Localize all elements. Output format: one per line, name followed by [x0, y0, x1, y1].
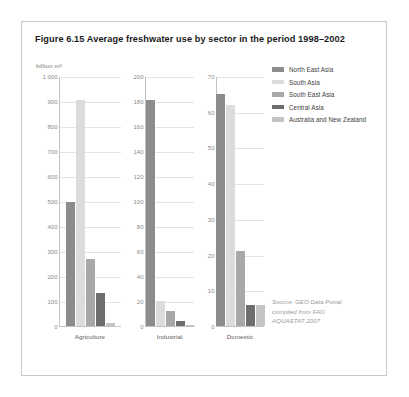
- legend-item: South Asia: [272, 79, 384, 86]
- bar-central-asia: [96, 293, 105, 326]
- bar-south-east-asia: [236, 251, 245, 326]
- bar-north-east-asia: [146, 100, 155, 326]
- y-axis-tick-label: 60: [208, 110, 215, 116]
- bar-south-east-asia: [86, 259, 95, 326]
- source-line-1: Source: GEO Data Portal,: [272, 297, 382, 307]
- bar-australia-and-new-zealand: [186, 325, 195, 326]
- y-axis-tick-label: 40: [137, 274, 144, 280]
- y-axis-tick-label: 140: [133, 149, 143, 155]
- bar-south-asia: [156, 301, 165, 326]
- y-axis-tick-label: 10: [208, 288, 215, 294]
- bar-group: [146, 77, 194, 326]
- legend-label: South East Asia: [289, 91, 334, 98]
- figure-title: Figure 6.15 Average freshwater use by se…: [35, 34, 375, 44]
- legend-label: Central Asia: [289, 104, 324, 111]
- chart-panel-domestic: 010203040506070 Domestic: [196, 77, 266, 345]
- source-line-3: AQUASTAT 2007: [272, 316, 382, 326]
- y-axis-tick-label: 100: [133, 199, 143, 205]
- bar-central-asia: [246, 305, 255, 326]
- y-axis-tick-label: 300: [47, 249, 57, 255]
- bar-central-asia: [176, 321, 185, 326]
- y-axis-tick-label: 70: [208, 74, 215, 80]
- y-axis-tick-label: 60: [137, 249, 144, 255]
- plot-area-agriculture: 01002003004005006007008009001 000: [59, 77, 121, 327]
- y-axis-tick-label: 400: [47, 224, 57, 230]
- y-axis-tick-label: 100: [47, 299, 57, 305]
- plot-area-industrial: 020406080100120140160180200: [145, 77, 194, 327]
- legend-item: North East Asia: [272, 66, 384, 73]
- bar-north-east-asia: [66, 202, 75, 326]
- y-axis-tick-label: 20: [208, 253, 215, 259]
- legend-label: Australia and New Zealand: [289, 116, 366, 123]
- legend-label: South Asia: [289, 79, 320, 86]
- chart-panel-industrial: 020406080100120140160180200 Industrial: [123, 77, 196, 345]
- legend-swatch-icon: [272, 105, 284, 110]
- plot-area-domestic: 010203040506070: [216, 77, 264, 327]
- figure-card: Figure 6.15 Average freshwater use by se…: [21, 21, 387, 376]
- category-label-domestic: Domestic: [216, 333, 264, 340]
- source-line-2: compiled from FAO: [272, 307, 382, 317]
- y-axis-tick-label: 1 000: [42, 74, 57, 80]
- bar-south-east-asia: [166, 311, 175, 326]
- y-axis-tick-label: 180: [133, 99, 143, 105]
- legend: North East AsiaSouth AsiaSouth East Asia…: [272, 66, 384, 129]
- legend-swatch-icon: [272, 67, 284, 72]
- y-axis-tick-label: 0: [211, 324, 214, 330]
- category-label-industrial: Industrial: [145, 333, 194, 340]
- bar-group: [217, 77, 264, 326]
- bar-group: [60, 77, 121, 326]
- y-axis-tick-label: 0: [140, 324, 143, 330]
- chart-panel-agriculture: 01002003004005006007008009001 000 Agricu…: [35, 77, 123, 345]
- y-axis-tick-label: 200: [133, 74, 143, 80]
- bar-australia-and-new-zealand: [256, 305, 265, 326]
- y-axis-tick-label: 80: [137, 224, 144, 230]
- bar-south-asia: [76, 100, 85, 326]
- legend-swatch-icon: [272, 117, 284, 122]
- y-axis-tick-label: 120: [133, 174, 143, 180]
- y-axis-tick-label: 30: [208, 217, 215, 223]
- y-axis-tick-label: 500: [47, 199, 57, 205]
- y-axis-tick-label: 50: [208, 145, 215, 151]
- legend-swatch-icon: [272, 92, 284, 97]
- y-axis-tick-label: 0: [54, 324, 57, 330]
- y-axis-unit-label: billion m³: [36, 62, 62, 69]
- legend-swatch-icon: [272, 80, 284, 85]
- y-axis-tick-label: 900: [47, 99, 57, 105]
- legend-item: South East Asia: [272, 91, 384, 98]
- legend-item: Australia and New Zealand: [272, 116, 384, 123]
- y-axis-tick-label: 40: [208, 181, 215, 187]
- source-note: Source: GEO Data Portal, compiled from F…: [272, 297, 382, 326]
- bar-north-east-asia: [216, 94, 225, 326]
- bar-australia-and-new-zealand: [106, 323, 115, 326]
- y-axis-tick-label: 20: [137, 299, 144, 305]
- category-label-agriculture: Agriculture: [59, 333, 121, 340]
- y-axis-tick-label: 600: [47, 174, 57, 180]
- y-axis-tick-label: 800: [47, 124, 57, 130]
- bar-south-asia: [226, 105, 235, 326]
- legend-label: North East Asia: [289, 66, 333, 73]
- legend-item: Central Asia: [272, 104, 384, 111]
- y-axis-tick-label: 160: [133, 124, 143, 130]
- y-axis-tick-label: 200: [47, 274, 57, 280]
- y-axis-tick-label: 700: [47, 149, 57, 155]
